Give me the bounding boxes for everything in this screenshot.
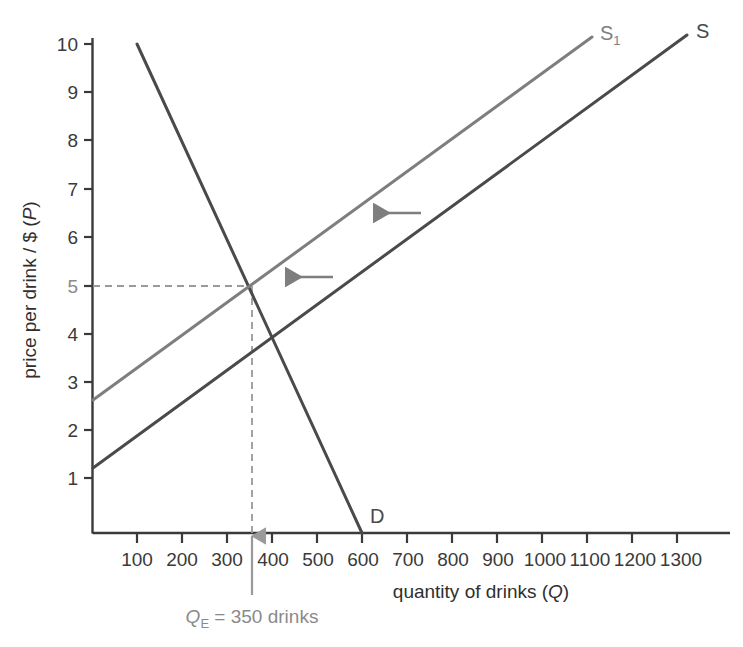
y-tick-label-1: 1 bbox=[67, 468, 78, 489]
x-axis-title: quantity of drinks (Q) bbox=[393, 581, 569, 602]
y-tick-label-3: 3 bbox=[67, 372, 78, 393]
x-tick-label-900: 900 bbox=[482, 549, 514, 570]
supply-curve-shifted bbox=[93, 37, 592, 400]
x-tick-label-400: 400 bbox=[257, 549, 289, 570]
y-tick-label-8: 8 bbox=[67, 130, 78, 151]
equilibrium-annotation-label: QE = 350 drinks bbox=[186, 606, 319, 631]
x-tick-label-1100: 1100 bbox=[570, 549, 611, 570]
curve-labels: S1S1 S D bbox=[370, 20, 709, 527]
x-tick-label-300: 300 bbox=[211, 549, 243, 570]
supply-curve bbox=[93, 35, 687, 468]
y-axis-title: price per drink / $ (P) bbox=[19, 201, 40, 378]
x-axis-tick-labels: 100 200 300 400 500 600 700 800 900 1000… bbox=[121, 549, 702, 570]
equilibrium-annotation: QE = 350 drinks bbox=[186, 606, 319, 631]
curves-group bbox=[93, 35, 687, 533]
x-tick-label-500: 500 bbox=[302, 549, 334, 570]
y-tick-label-4: 4 bbox=[67, 324, 78, 345]
y-tick-label-10: 10 bbox=[57, 34, 78, 55]
x-tick-label-200: 200 bbox=[166, 549, 198, 570]
y-tick-label-5: 5 bbox=[67, 276, 78, 297]
x-tick-label-100: 100 bbox=[121, 549, 153, 570]
x-tick-label-1200: 1200 bbox=[614, 549, 656, 570]
y-tick-label-2: 2 bbox=[67, 420, 78, 441]
y-tick-label-9: 9 bbox=[67, 82, 78, 103]
x-tick-label-700: 700 bbox=[392, 549, 424, 570]
demand-curve bbox=[137, 44, 362, 533]
supply-demand-chart: 10 9 8 7 6 5 4 3 2 1 1 bbox=[0, 0, 743, 647]
curve-label-s: S bbox=[696, 20, 709, 42]
y-axis-tick-labels: 10 9 8 7 6 5 4 3 2 1 bbox=[57, 34, 79, 489]
x-tick-label-600: 600 bbox=[347, 549, 379, 570]
curve-label-d: D bbox=[370, 505, 384, 527]
axes-group bbox=[93, 38, 731, 534]
axis-titles: price per drink / $ (P) quantity of drin… bbox=[19, 201, 569, 602]
x-tick-label-1300: 1300 bbox=[660, 549, 702, 570]
curve-label-s1: S1S1 bbox=[600, 22, 621, 48]
chart-canvas: 10 9 8 7 6 5 4 3 2 1 1 bbox=[0, 0, 743, 647]
x-tick-label-800: 800 bbox=[437, 549, 469, 570]
y-tick-label-6: 6 bbox=[67, 227, 78, 248]
x-axis-ticks bbox=[137, 533, 677, 543]
x-tick-label-1000: 1000 bbox=[524, 549, 566, 570]
y-tick-label-7: 7 bbox=[67, 179, 78, 200]
